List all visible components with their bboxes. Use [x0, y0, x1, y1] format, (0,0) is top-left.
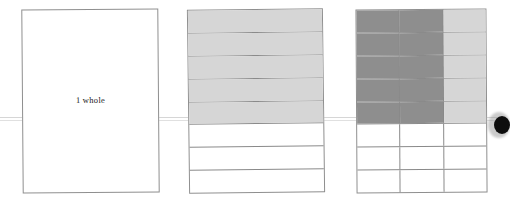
twentyfourths-cell-grid [356, 10, 486, 193]
grid-cell [357, 56, 400, 78]
grid-cell [357, 147, 400, 169]
grid-cell [188, 55, 322, 79]
grid-cell [401, 170, 444, 192]
grid-cell [357, 170, 400, 192]
grid-cell [444, 170, 486, 192]
grid-cell [190, 146, 324, 170]
table-row [357, 124, 486, 148]
grid-cell [400, 56, 443, 78]
grid-cell [444, 124, 486, 146]
table-row [189, 101, 323, 126]
grid-cell [400, 124, 443, 146]
grid-cell [400, 101, 443, 123]
grid-cell [400, 33, 443, 55]
table-row [357, 170, 486, 193]
grid-cell [357, 102, 400, 124]
one-whole-label: 1 whole [76, 95, 105, 105]
grid-cell [401, 147, 444, 169]
table-row [190, 146, 324, 171]
grid-cell [444, 101, 486, 123]
table-row [189, 78, 323, 103]
grid-cell [188, 32, 322, 56]
fraction-model-eighths [188, 9, 324, 193]
grid-cell [189, 78, 323, 102]
table-row [357, 55, 486, 79]
table-row [189, 124, 323, 149]
grid-cell [444, 147, 486, 169]
table-row [357, 147, 486, 171]
eighths-rectangle [187, 8, 325, 194]
grid-cell [443, 55, 485, 77]
grid-cell [188, 9, 322, 33]
table-row [190, 169, 324, 193]
grid-cell [189, 101, 323, 125]
table-row [357, 32, 486, 56]
table-row [356, 10, 485, 34]
grid-cell [190, 169, 324, 193]
grid-cell [357, 33, 400, 55]
fraction-model-one-whole: 1 whole [22, 9, 159, 193]
page-edge-ink-mark [494, 116, 510, 134]
whole-rectangle: 1 whole [21, 8, 159, 193]
table-row [357, 78, 486, 102]
grid-cell [443, 32, 485, 54]
grid-cell [357, 79, 400, 101]
table-row [188, 9, 322, 34]
grid-cell [357, 125, 400, 147]
grid-cell [400, 10, 443, 32]
grid-cell [400, 78, 443, 100]
grid-cell [444, 78, 486, 100]
grid-cell [443, 10, 485, 32]
table-row [188, 55, 322, 80]
table-row [188, 32, 322, 57]
eighths-row-grid [188, 9, 324, 193]
table-row [357, 101, 486, 125]
twentyfourths-rectangle [355, 9, 487, 194]
grid-cell [356, 10, 399, 32]
grid-cell [189, 124, 323, 148]
fraction-model-twentyfourths [356, 9, 487, 193]
